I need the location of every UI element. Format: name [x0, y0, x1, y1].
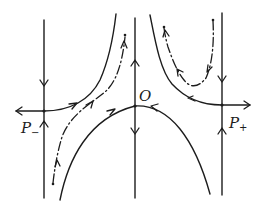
p-plus-separatrix — [150, 15, 250, 105]
label-p-plus-subscript: + — [239, 122, 247, 133]
trajectory-end-dot — [163, 26, 166, 29]
trajectory-start-dot — [52, 183, 55, 186]
right-dashdot-trajectory — [164, 21, 213, 86]
trajectory-end-dot — [124, 34, 127, 37]
fixed-point-p-plus — [220, 103, 223, 106]
p-minus-separatrix — [16, 14, 116, 111]
fixed-point-origin — [133, 104, 136, 107]
label-origin: O — [139, 87, 151, 105]
fixed-point-p-minus — [42, 109, 45, 112]
trajectory-start-dot — [212, 19, 215, 22]
label-p-minus-subscript: − — [31, 127, 39, 138]
phase-portrait-diagram: O P − P + — [0, 0, 262, 211]
